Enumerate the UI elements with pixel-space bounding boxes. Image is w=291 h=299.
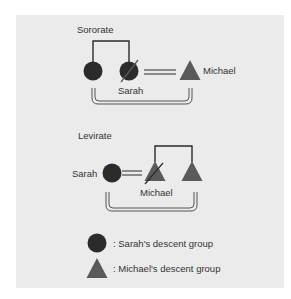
sibling-bracket [155,146,192,162]
sibling-bracket [93,41,129,62]
legend-circle-text: : Sarah's descent group [113,239,213,249]
levirate-diagram [103,146,203,211]
kinship-diagram [0,0,291,299]
levirate-title: Levirate [78,131,112,141]
sororate-michael-label: Michael [203,66,236,76]
sororate-title: Sororate [77,25,113,35]
sororate-sarah-label: Sarah [118,86,143,96]
levirate-sarah-label: Sarah [72,169,97,179]
michael-triangle [180,60,201,80]
sarah-circle [103,164,122,183]
sister-circle [84,62,103,81]
levirate-michael-label: Michael [140,188,173,198]
legend-triangle-icon [87,258,108,278]
legend-triangle-text: : Michael's descent group [113,264,220,274]
legend [87,234,108,279]
legend-circle-icon [88,234,107,253]
brother-triangle [182,161,203,181]
